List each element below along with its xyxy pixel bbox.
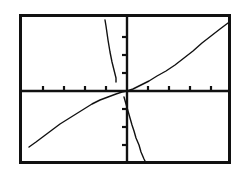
calculator-graph-screen	[0, 0, 242, 176]
screen-background	[0, 0, 242, 176]
graph-canvas[interactable]	[0, 0, 242, 176]
